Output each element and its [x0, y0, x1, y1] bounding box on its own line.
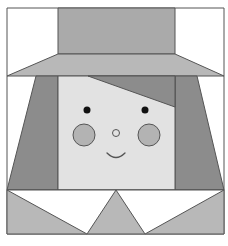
eye-right	[142, 107, 149, 114]
girl-illustration	[0, 0, 228, 246]
cheek-left	[73, 124, 95, 146]
cheek-right	[138, 124, 160, 146]
nose	[113, 130, 120, 137]
hat-crown	[58, 8, 175, 54]
eye-left	[84, 107, 91, 114]
